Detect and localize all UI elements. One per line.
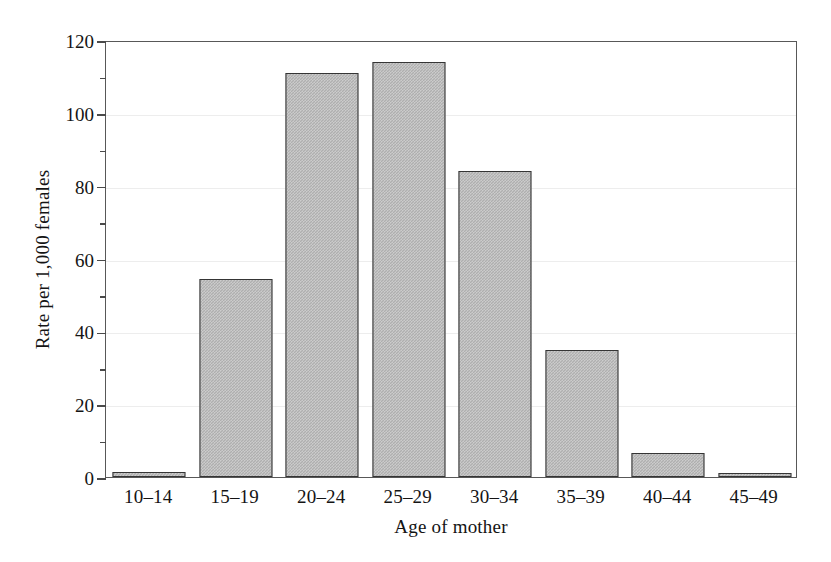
y-tick-major — [97, 187, 106, 189]
bar-slot — [193, 42, 280, 477]
bar-chart-figure: Rate per 1,000 females 020406080100120 1… — [0, 0, 831, 562]
x-axis-title: Age of mother — [105, 516, 797, 538]
y-tick-label: 100 — [66, 104, 95, 126]
plot-area: 020406080100120 — [105, 41, 797, 478]
bar-slot — [452, 42, 539, 477]
x-tick-label: 20–24 — [278, 486, 365, 508]
bar-25-29[interactable] — [372, 62, 445, 477]
x-tick-label: 45–49 — [711, 486, 798, 508]
y-tick-label: 120 — [66, 31, 95, 53]
x-tick-label: 25–29 — [365, 486, 452, 508]
x-tick-label: 35–39 — [538, 486, 625, 508]
y-tick-major — [97, 478, 106, 480]
y-tick-label: 60 — [75, 250, 94, 272]
x-tick-label: 15–19 — [192, 486, 279, 508]
x-tick-label: 30–34 — [451, 486, 538, 508]
bar-slot — [366, 42, 453, 477]
y-tick-major — [97, 41, 106, 43]
y-tick-major — [97, 333, 106, 335]
bar-40-44[interactable] — [632, 453, 705, 477]
bar-slot — [539, 42, 626, 477]
y-tick-label: 0 — [85, 468, 95, 490]
y-tick-label: 80 — [75, 177, 94, 199]
bar-45-49[interactable] — [718, 473, 791, 477]
y-tick-major — [97, 114, 106, 116]
bar-slot — [106, 42, 193, 477]
bar-20-24[interactable] — [286, 73, 359, 477]
x-tick-label: 10–14 — [105, 486, 192, 508]
x-tick-label: 40–44 — [624, 486, 711, 508]
y-tick-label: 40 — [75, 322, 94, 344]
bar-35-39[interactable] — [545, 350, 618, 477]
y-axis-title: Rate per 1,000 females — [28, 41, 58, 478]
y-tick-label: 20 — [75, 395, 94, 417]
bar-15-19[interactable] — [199, 279, 272, 477]
y-tick-major — [97, 260, 106, 262]
y-tick-major — [97, 405, 106, 407]
bar-slot — [625, 42, 712, 477]
bar-30-34[interactable] — [459, 171, 532, 477]
bar-slot — [712, 42, 799, 477]
bar-10-14[interactable] — [113, 472, 186, 477]
bar-slot — [279, 42, 366, 477]
bars-layer — [106, 42, 796, 477]
